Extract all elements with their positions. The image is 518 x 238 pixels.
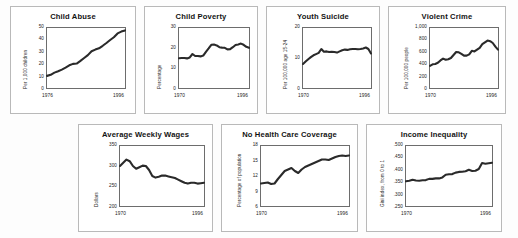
chart-row-bottom: Average Weekly Wages200250300350Dollars1… (78, 124, 510, 232)
plot-area: 01020Per 100,000 age 15-2419701996 (267, 7, 381, 115)
series-line (389, 7, 507, 115)
series-line (222, 125, 359, 233)
figure-sheet: Child Abuse01020304050Per 1,000 children… (0, 0, 518, 238)
chart-row-top: Child Abuse01020304050Per 1,000 children… (10, 6, 514, 114)
chart-panel-average-weekly-wages: Average Weekly Wages200250300350Dollars1… (78, 124, 213, 232)
plot-area: 69121518Percentage of population19701996 (222, 125, 359, 233)
series-line (11, 7, 137, 115)
series-line (79, 125, 214, 233)
plot-area: 0102030Percentage19701996 (145, 7, 259, 115)
chart-panel-youth-suicide: Youth Suicide01020Per 100,000 age 15-241… (266, 6, 380, 114)
plot-area: 02004006008001,000Per 100,000 people1970… (389, 7, 507, 115)
series-line (367, 125, 503, 233)
plot-area: 01020304050Per 1,000 children19761996 (11, 7, 137, 115)
chart-panel-no-health-care-coverage: No Health Care Coverage69121518Percentag… (221, 124, 358, 232)
plot-area: .250.300.350.400.450.500Gini index, from… (367, 125, 503, 233)
series-line (145, 7, 259, 115)
chart-panel-violent-crime: Violent Crime02004006008001,000Per 100,0… (388, 6, 506, 114)
series-line (267, 7, 381, 115)
chart-panel-income-inequality: Income Inequality.250.300.350.400.450.50… (366, 124, 502, 232)
chart-panel-child-abuse: Child Abuse01020304050Per 1,000 children… (10, 6, 136, 114)
chart-panel-child-poverty: Child Poverty0102030Percentage19701996 (144, 6, 258, 114)
plot-area: 200250300350Dollars19701996 (79, 125, 214, 233)
